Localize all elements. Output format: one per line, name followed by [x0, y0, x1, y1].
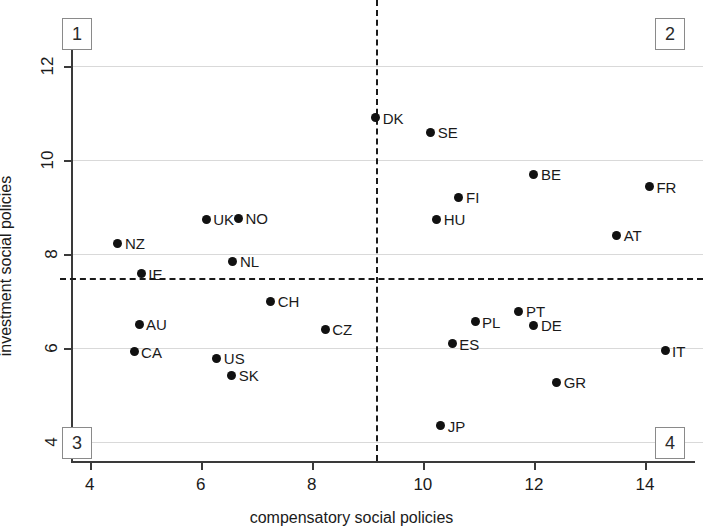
data-point-gr[interactable] — [552, 378, 561, 387]
data-point-label-fi: FI — [466, 189, 479, 206]
data-point-label-it: IT — [672, 342, 685, 359]
data-point-label-sk: SK — [239, 367, 259, 384]
data-point-label-be: BE — [541, 166, 561, 183]
data-point-label-uk: UK — [213, 211, 234, 228]
data-point-cz[interactable] — [321, 325, 330, 334]
data-point-label-at: AT — [624, 227, 642, 244]
quadrant-badge-2: 2 — [655, 18, 685, 50]
data-point-label-se: SE — [438, 124, 458, 141]
x-tick-label-6: 6 — [196, 475, 205, 495]
data-point-au[interactable] — [135, 320, 144, 329]
data-point-at[interactable] — [612, 231, 621, 240]
data-point-label-jp: JP — [448, 417, 466, 434]
y-tick-label-4: 4 — [42, 437, 62, 446]
gridline-y-4 — [73, 442, 703, 443]
data-point-label-no: NO — [245, 210, 268, 227]
y-tick-10 — [64, 160, 73, 162]
plot-inner: 4681012144681012DKSEBEFRFINOUKHUATNZNLIE… — [73, 24, 695, 461]
data-point-es[interactable] — [448, 339, 457, 348]
quadrant-badge-3: 3 — [62, 427, 92, 459]
data-point-label-dk: DK — [383, 109, 404, 126]
data-point-se[interactable] — [426, 128, 435, 137]
data-point-label-cz: CZ — [332, 321, 352, 338]
gridline-y-8 — [73, 254, 703, 255]
plot-area: 4681012144681012DKSEBEFRFINOUKHUATNZNLIE… — [71, 24, 695, 463]
x-tick-12 — [534, 461, 536, 470]
data-point-label-de: DE — [541, 317, 562, 334]
data-point-us[interactable] — [212, 354, 221, 363]
data-point-it[interactable] — [661, 346, 670, 355]
reference-line-vertical — [376, 0, 378, 461]
data-point-no[interactable] — [234, 214, 243, 223]
y-axis-title: investment social policies — [0, 175, 15, 356]
x-tick-label-10: 10 — [413, 475, 432, 495]
x-tick-10 — [423, 461, 425, 470]
gridline-y-12 — [73, 66, 703, 67]
x-tick-label-4: 4 — [85, 475, 94, 495]
data-point-be[interactable] — [529, 170, 538, 179]
data-point-sk[interactable] — [227, 371, 236, 380]
x-tick-label-8: 8 — [307, 475, 316, 495]
x-tick-8 — [312, 461, 314, 470]
y-tick-label-10: 10 — [38, 151, 58, 170]
data-point-jp[interactable] — [436, 421, 445, 430]
y-tick-label-8: 8 — [42, 250, 62, 259]
data-point-fr[interactable] — [645, 182, 654, 191]
data-point-pt[interactable] — [514, 307, 523, 316]
data-point-ch[interactable] — [266, 297, 275, 306]
x-tick-label-14: 14 — [636, 475, 655, 495]
data-point-ca[interactable] — [130, 347, 139, 356]
data-point-uk[interactable] — [202, 215, 211, 224]
data-point-pl[interactable] — [471, 317, 480, 326]
data-point-de[interactable] — [529, 321, 538, 330]
data-point-label-gr: GR — [564, 374, 587, 391]
x-tick-14 — [645, 461, 647, 470]
y-tick-8 — [64, 254, 73, 256]
data-point-label-nl: NL — [240, 253, 259, 270]
gridline-y-10 — [73, 160, 703, 161]
data-point-label-hu: HU — [444, 211, 466, 228]
data-point-nl[interactable] — [228, 257, 237, 266]
data-point-label-ch: CH — [278, 293, 300, 310]
data-point-label-ca: CA — [141, 343, 162, 360]
y-tick-label-12: 12 — [38, 57, 58, 76]
data-point-hu[interactable] — [432, 215, 441, 224]
data-point-label-au: AU — [146, 316, 167, 333]
x-tick-4 — [90, 461, 92, 470]
quadrant-badge-1: 1 — [62, 18, 92, 50]
y-tick-label-6: 6 — [42, 343, 62, 352]
x-tick-label-12: 12 — [524, 475, 543, 495]
data-point-dk[interactable] — [371, 113, 380, 122]
data-point-label-us: US — [224, 350, 245, 367]
x-axis-title: compensatory social policies — [0, 509, 703, 527]
y-tick-6 — [64, 348, 73, 350]
data-point-nz[interactable] — [113, 239, 122, 248]
scatter-plot-figure: 4681012144681012DKSEBEFRFINOUKHUATNZNLIE… — [0, 0, 703, 531]
data-point-label-fr: FR — [656, 178, 676, 195]
data-point-label-pl: PL — [482, 313, 500, 330]
data-point-label-nz: NZ — [125, 235, 145, 252]
data-point-fi[interactable] — [454, 193, 463, 202]
gridline-y-6 — [73, 348, 703, 349]
data-point-label-ie: IE — [148, 265, 162, 282]
quadrant-badge-4: 4 — [655, 427, 685, 459]
x-tick-6 — [201, 461, 203, 470]
data-point-label-es: ES — [459, 335, 479, 352]
y-tick-12 — [64, 66, 73, 68]
